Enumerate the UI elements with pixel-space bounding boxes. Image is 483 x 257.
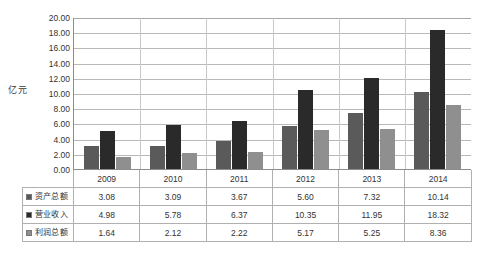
bar-groups [74, 18, 471, 169]
bar-group-2011 [206, 18, 272, 169]
table-cell-2013-series1: 7.32 [339, 188, 405, 206]
y-tick-label: 10.00 [33, 90, 70, 99]
y-tick-label: 20.00 [33, 14, 70, 23]
table-cell-2012-series3: 5.17 [272, 224, 338, 242]
plot-area [73, 18, 471, 170]
bar-chart-with-data-table: 亿元 20.0018.0016.0014.0012.0010.008.006.0… [0, 0, 483, 257]
bar-2014-series1 [414, 92, 429, 169]
bar-2010-series1 [150, 146, 165, 169]
legend-label: 利润总额 [35, 228, 68, 238]
x-axis-label-2012: 2012 [272, 170, 338, 188]
table-cell-2009-series3: 1.64 [74, 224, 140, 242]
y-tick-label: 2.00 [33, 150, 70, 159]
bar-2010-series3 [182, 153, 197, 169]
bar-2009-series3 [116, 157, 131, 169]
table-row: 营业收入4.985.786.3710.3511.9518.32 [23, 206, 472, 224]
chart-data-table: 200920102011201220132014资产总额3.083.093.67… [22, 170, 472, 242]
legend-item-3: 利润总额 [23, 224, 74, 242]
bar-2013-series3 [380, 129, 395, 169]
table-cell-2012-series2: 10.35 [272, 206, 338, 224]
y-tick-label: 18.00 [33, 29, 70, 38]
table-row: 资产总额3.083.093.675.607.3210.14 [23, 188, 472, 206]
table-cell-2010-series3: 2.12 [140, 224, 206, 242]
legend-item-1: 资产总额 [23, 188, 74, 206]
bar-2013-series2 [364, 78, 379, 169]
x-axis-label-2013: 2013 [339, 170, 405, 188]
bar-group-2010 [140, 18, 206, 169]
bar-group-2009 [74, 18, 140, 169]
bar-2009-series1 [84, 146, 99, 169]
bar-2009-series2 [100, 131, 115, 169]
table-cell-2013-series2: 11.95 [339, 206, 405, 224]
legend-item-2: 营业收入 [23, 206, 74, 224]
table-cell-2013-series3: 5.25 [339, 224, 405, 242]
y-tick-label: 12.00 [33, 74, 70, 83]
legend-label: 资产总额 [35, 192, 68, 202]
y-tick-label: 4.00 [33, 135, 70, 144]
bar-group-2012 [273, 18, 339, 169]
x-axis-label-2009: 2009 [74, 170, 140, 188]
bar-2013-series1 [348, 113, 363, 169]
x-axis-label-2014: 2014 [405, 170, 471, 188]
bar-group-2014 [405, 18, 471, 169]
y-tick-label: 14.00 [33, 59, 70, 68]
y-tick-label: 16.00 [33, 44, 70, 53]
y-axis-tick-labels: 20.0018.0016.0014.0012.0010.008.006.004.… [33, 18, 70, 170]
bar-2011-series2 [232, 121, 247, 169]
bar-2014-series3 [446, 105, 461, 169]
bar-group-2013 [339, 18, 405, 169]
bar-2014-series2 [430, 30, 445, 169]
table-corner-cell [23, 170, 74, 188]
legend-swatch-icon [26, 230, 32, 236]
y-tick-label: 6.00 [33, 120, 70, 129]
table-row: 利润总额1.642.122.225.175.258.36 [23, 224, 472, 242]
bar-2010-series2 [166, 125, 181, 169]
bar-2012-series1 [282, 126, 297, 169]
table-cell-2012-series1: 5.60 [272, 188, 338, 206]
bar-2012-series3 [314, 130, 329, 169]
legend-swatch-icon [26, 194, 32, 200]
legend-label: 营业收入 [35, 210, 68, 220]
table-cell-2011-series2: 6.37 [206, 206, 272, 224]
legend-swatch-icon [26, 212, 32, 218]
table-row-years: 200920102011201220132014 [23, 170, 472, 188]
x-axis-label-2010: 2010 [140, 170, 206, 188]
bar-2011-series1 [216, 141, 231, 169]
table-cell-2009-series2: 4.98 [74, 206, 140, 224]
table-cell-2011-series1: 3.67 [206, 188, 272, 206]
table-cell-2014-series1: 10.14 [405, 188, 471, 206]
table-cell-2010-series1: 3.09 [140, 188, 206, 206]
bar-2011-series3 [248, 152, 263, 169]
table-cell-2009-series1: 3.08 [74, 188, 140, 206]
x-axis-label-2011: 2011 [206, 170, 272, 188]
table-cell-2010-series2: 5.78 [140, 206, 206, 224]
bar-2012-series2 [298, 90, 313, 169]
table-cell-2014-series2: 18.32 [405, 206, 471, 224]
table-cell-2014-series3: 8.36 [405, 224, 471, 242]
y-tick-label: 8.00 [33, 105, 70, 114]
table-cell-2011-series3: 2.22 [206, 224, 272, 242]
